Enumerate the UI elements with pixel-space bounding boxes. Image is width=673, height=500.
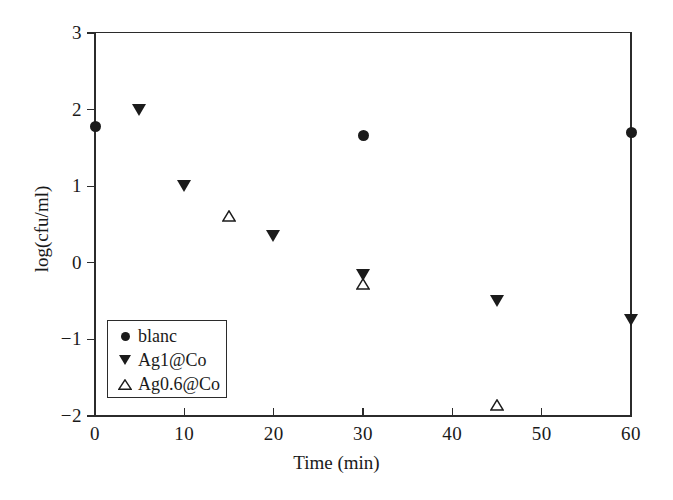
legend-entry-blanc: blanc [116,324,177,348]
legend-label: Ag0.6@Co [138,375,220,393]
x-tick-label: 10 [161,424,207,443]
x-tick [184,408,185,416]
x-tick-label: 60 [608,424,654,443]
y-tick-label: 1 [48,176,82,195]
plot-frame-right [630,32,632,417]
y-tick [87,109,95,110]
y-axis-line [94,32,96,417]
legend-label: blanc [138,327,177,345]
legend-entry-ag1co: Ag1@Co [116,348,207,372]
y-tick-label: 2 [48,100,82,119]
x-tick [94,408,95,416]
legend-label: Ag1@Co [138,351,207,369]
x-tick [630,408,631,416]
data-point-filled-circle [358,130,369,141]
x-tick-label: 20 [251,424,297,443]
legend-box: blanc Ag1@Co Ag0.6@Co [107,320,227,398]
data-point-filled-circle [90,121,101,132]
legend-entry-ag06co: Ag0.6@Co [116,372,220,396]
x-axis-title: Time (min) [0,452,673,474]
data-point-open-triangle-up [222,208,236,226]
plot-frame-top [94,32,632,33]
legend-filled-triangle-down-icon [116,355,134,365]
data-point-filled-triangle-down [132,104,146,116]
x-tick [273,408,274,416]
x-tick [541,408,542,416]
y-tick [87,339,95,340]
data-point-open-triangle-up [356,276,370,294]
x-tick-label: 40 [429,424,475,443]
data-point-filled-triangle-down [624,314,638,326]
x-tick-label: 0 [72,424,118,443]
x-tick-label: 30 [340,424,386,443]
legend-open-triangle-up-icon [116,379,134,390]
y-axis-title: log(cfu/ml) [31,149,53,309]
x-tick [452,408,453,416]
y-tick-label: −1 [48,329,82,348]
data-point-filled-circle [626,127,637,138]
y-tick-label: 3 [48,23,82,42]
scatter-chart-figure: −2−10123 0102030405060 log(cfu/ml) Time … [0,0,673,500]
legend-filled-circle-icon [116,332,134,341]
data-point-filled-triangle-down [177,180,191,192]
x-tick [362,408,363,416]
x-tick-label: 50 [519,424,565,443]
y-tick-label: −2 [48,406,82,425]
y-tick [87,186,95,187]
y-tick [87,32,95,33]
y-tick [87,262,95,263]
data-point-filled-triangle-down [266,230,280,242]
data-point-filled-triangle-down [490,295,504,307]
data-point-open-triangle-up [490,397,504,415]
y-tick-label: 0 [48,253,82,272]
